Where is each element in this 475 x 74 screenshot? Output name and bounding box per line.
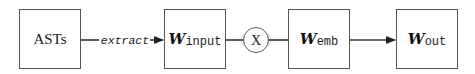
pipeline-diagram: ASTs extract Winput X Wemb Wout [0,0,475,74]
node-w-emb: Wemb [289,10,350,69]
node-w-out: Wout [397,10,458,69]
node-mult: X [244,28,269,53]
w-out-subscript: out [425,35,447,49]
w-emb-subscript: emb [317,35,339,49]
node-asts: ASTs [20,10,81,69]
edge-extract: extract [81,34,163,47]
asts-label: ASTs [33,31,66,47]
node-w-input: Winput [165,10,226,69]
w-input-subscript: input [185,35,221,49]
mult-label: X [251,33,261,48]
edge-extract-label: extract [101,34,149,47]
